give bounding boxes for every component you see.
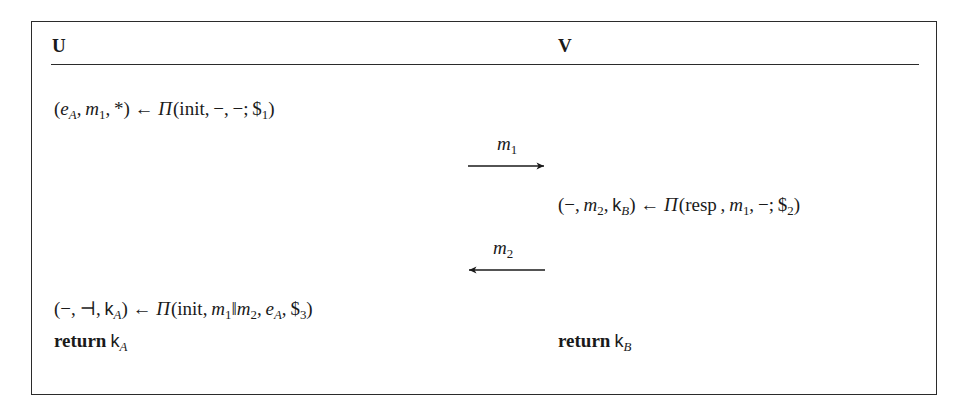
token-dash: −: [233, 98, 244, 119]
token-semicolon: ;: [243, 98, 248, 119]
token-comma: ,: [282, 298, 287, 319]
return-keyword: return: [558, 330, 610, 351]
token-sub-2: 2: [597, 203, 603, 218]
message-arrow-m2: m2: [428, 238, 578, 276]
token-m: m: [493, 237, 507, 258]
token-leftarrow: ←: [132, 298, 151, 319]
statement-u-final: (−, ⊣, kA) ← Π(init, m1‖m2, eA, $3): [54, 298, 313, 320]
header-divider-rule: [51, 64, 919, 65]
token-pi: Π: [664, 194, 679, 215]
token-sub-b: B: [623, 339, 631, 354]
token-dollar: $: [290, 298, 300, 319]
token-sub-a: A: [274, 307, 282, 322]
token-dash: −: [60, 298, 71, 319]
token-pi: Π: [156, 298, 171, 319]
token-comma: ,: [203, 298, 208, 319]
token-close-paren: ): [629, 194, 635, 215]
token-pi: Π: [158, 98, 173, 119]
token-e: e: [265, 298, 273, 319]
token-m: m: [497, 133, 511, 154]
token-sub-a: A: [119, 339, 127, 354]
token-resp: resp: [685, 194, 717, 215]
token-leftarrow: ←: [135, 98, 154, 119]
token-sub-2: 2: [787, 203, 793, 218]
token-turnstile: ⊣: [80, 298, 96, 319]
token-sub-3: 3: [300, 307, 306, 322]
token-comma: ,: [71, 298, 76, 319]
token-k: k: [105, 299, 114, 319]
party-header-v: V: [558, 36, 572, 55]
token-comma: ,: [205, 98, 210, 119]
token-init: init: [177, 298, 202, 319]
message-arrow-m1: m1: [432, 134, 582, 172]
token-sub-b: B: [621, 203, 629, 218]
statement-u-init: (eA, m1, *) ← Π(init, −, −; $1): [54, 98, 275, 120]
token-semicolon: ;: [769, 194, 774, 215]
token-sub-a: A: [69, 107, 77, 122]
token-comma: ,: [96, 298, 101, 319]
token-m: m: [237, 298, 251, 319]
token-dollar: $: [778, 194, 788, 215]
token-sub-1: 1: [225, 307, 231, 322]
token-m: m: [211, 298, 225, 319]
return-keyword: return: [54, 330, 106, 351]
token-m: m: [584, 194, 598, 215]
token-init: init: [179, 98, 204, 119]
message-label-m1: m1: [432, 134, 582, 153]
token-comma: ,: [105, 98, 110, 119]
token-comma: ,: [77, 98, 82, 119]
arrow-left-icon: [428, 264, 578, 276]
token-comma: ,: [604, 194, 609, 215]
token-sub-2: 2: [250, 307, 256, 322]
token-leftarrow: ←: [640, 194, 659, 215]
token-dash: −: [758, 194, 769, 215]
token-sub-a: A: [114, 307, 122, 322]
token-close-paren: ): [306, 298, 312, 319]
protocol-diagram-frame: U V (eA, m1, *) ← Π(init, −, −; $1) m1 (…: [31, 21, 937, 395]
token-sub-1: 1: [262, 107, 268, 122]
token-sub-1: 1: [511, 142, 517, 157]
message-label-m2: m2: [428, 238, 578, 257]
token-close-paren: ): [123, 98, 129, 119]
token-k: k: [612, 195, 621, 215]
token-close-paren: ): [121, 298, 127, 319]
token-comma: ,: [257, 298, 262, 319]
arrow-right-icon: [432, 160, 582, 172]
return-statement-v: returnkB: [558, 330, 631, 352]
token-close-paren: ): [794, 194, 800, 215]
statement-v-resp: (−, m2, kB) ← Π(resp , m1, −; $2): [558, 194, 800, 216]
token-close-paren: ): [268, 98, 274, 119]
token-dollar: $: [252, 98, 262, 119]
token-comma: ,: [575, 194, 580, 215]
token-dash: −: [213, 98, 224, 119]
token-comma: ,: [224, 98, 229, 119]
return-statement-u: returnkA: [54, 330, 127, 352]
token-e: e: [60, 98, 68, 119]
token-m: m: [85, 98, 99, 119]
token-sub-1: 1: [99, 107, 105, 122]
token-comma: ,: [721, 194, 726, 215]
token-sub-2: 2: [507, 246, 513, 261]
token-comma: ,: [749, 194, 754, 215]
party-header-u: U: [52, 36, 66, 55]
token-dash: −: [564, 194, 575, 215]
token-m: m: [729, 194, 743, 215]
token-sub-1: 1: [743, 203, 749, 218]
